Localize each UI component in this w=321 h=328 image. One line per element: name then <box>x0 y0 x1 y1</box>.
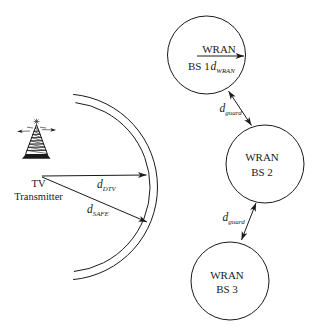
tv-label: TV <box>32 178 46 189</box>
bs3-network-label: WRAN <box>210 269 244 281</box>
tower-lattice-braces <box>27 128 48 154</box>
network-topology-diagram: TV Transmitter dDTV dSAFE WRAN BS 1 dWRA… <box>0 0 321 328</box>
wran-bs1-circle <box>168 16 246 94</box>
bs1-network-label: WRAN <box>202 43 236 55</box>
bs2-id-label: BS 2 <box>251 166 273 178</box>
wran-bs2-circle <box>226 125 304 203</box>
bs2-network-label: WRAN <box>245 151 279 163</box>
wran-bs3-circle <box>191 242 269 320</box>
d-guard-top-label: dguard <box>220 102 243 117</box>
d-guard-bottom-label: dguard <box>223 211 246 226</box>
tv-transmitter-icon <box>18 119 56 159</box>
d-dtv-label: dDTV <box>97 178 116 192</box>
bs3-id-label: BS 3 <box>216 283 238 295</box>
figure-canvas: TV Transmitter dDTV dSAFE WRAN BS 1 dWRA… <box>0 0 321 328</box>
bs1-id-label: BS 1 <box>188 60 210 72</box>
d-safe-label: dSAFE <box>87 203 109 217</box>
tower-base <box>22 155 51 159</box>
d-dtv-arrow <box>42 175 147 176</box>
transmitter-label: Transmitter <box>14 191 63 202</box>
